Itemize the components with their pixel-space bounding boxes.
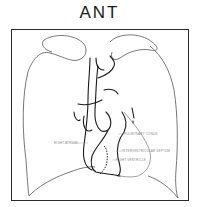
left-clavicle xyxy=(110,35,157,60)
label-right-ventricle: RIGHT VENTRICLE xyxy=(116,158,146,162)
left-lung-outline xyxy=(150,46,178,198)
right-atrium-curve xyxy=(83,116,92,131)
left-diaphragm xyxy=(148,176,178,198)
svc-line xyxy=(83,58,92,170)
label-right-atrium: RIGHT ATRIUM xyxy=(54,141,78,145)
small-vessel-left xyxy=(74,112,80,121)
chest-diagram: RIGHT ATRIUM PULMONARY CONUS INTERVENTRI… xyxy=(0,0,199,207)
septum-dashed-line xyxy=(100,146,107,174)
arch-line xyxy=(98,56,115,78)
right-lung-outline xyxy=(23,35,86,196)
pulmonary-branch xyxy=(104,89,118,94)
heart-inferior xyxy=(91,130,120,176)
ventricle-outline xyxy=(118,112,151,177)
label-interventricular-septum: INTERVENTRICULAR SEPTUM xyxy=(122,149,170,153)
left-heart-border xyxy=(117,112,126,176)
label-pulmonary-conus: PULMONARY CONUS xyxy=(124,132,158,136)
leader-lines xyxy=(72,134,124,160)
small-vessel-right xyxy=(132,108,134,118)
right-clavicle xyxy=(42,40,52,52)
cross-vessel xyxy=(78,100,102,105)
right-diaphragm xyxy=(29,167,95,196)
